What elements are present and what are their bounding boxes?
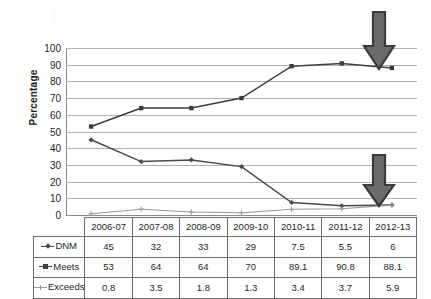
series-name: DNM xyxy=(55,237,77,255)
table-cell: 64 xyxy=(180,257,227,278)
cropped-title-band xyxy=(52,7,296,25)
series-marker-exceeds xyxy=(339,206,344,211)
legend-marker-cross-icon xyxy=(34,283,47,292)
table-cell: 70 xyxy=(227,257,274,278)
series-marker-meets xyxy=(289,64,293,68)
table-row: Meets 53 64 64 70 89.1 90.8 88.1 xyxy=(34,257,417,278)
column-header: 2012-13 xyxy=(369,218,416,237)
table-cell: 6 xyxy=(369,237,416,258)
table-cell: 53 xyxy=(85,257,132,278)
y-axis-tick-label: 30 xyxy=(50,159,61,170)
series-marker-dnm xyxy=(88,137,93,142)
arrow-meets-2012-13 xyxy=(362,10,396,72)
y-axis-tick-label: 100 xyxy=(44,43,61,54)
series-marker-meets xyxy=(239,96,243,100)
legend-marker-square-icon xyxy=(39,262,52,271)
table-cell: 1.8 xyxy=(180,278,227,299)
series-marker-exceeds xyxy=(189,209,194,214)
y-axis-tick-label: 90 xyxy=(50,59,61,70)
y-axis-tick-label: 10 xyxy=(50,193,61,204)
y-axis-tick-label: 80 xyxy=(50,76,61,87)
table-cell: 3.7 xyxy=(322,278,369,299)
legend-item-dnm: DNM xyxy=(34,237,85,258)
column-header: 2009-10 xyxy=(227,218,274,237)
table-cell: 90.8 xyxy=(322,257,369,278)
y-axis-tick-label: 40 xyxy=(50,143,61,154)
legend-marker-diamond-icon xyxy=(41,242,54,251)
table-cell: 89.1 xyxy=(274,257,321,278)
series-marker-meets xyxy=(189,106,193,110)
arrow-exceeds-2012-13 xyxy=(362,153,396,209)
series-line-meets xyxy=(91,63,392,126)
table-cell: 64 xyxy=(132,257,179,278)
table-row: Exceeds 0.8 3.5 1.8 1.3 3.4 3.7 5.9 xyxy=(34,278,417,299)
table-cell: 3.5 xyxy=(132,278,179,299)
column-header: 2007-08 xyxy=(132,218,179,237)
column-header: 2006-07 xyxy=(85,218,132,237)
column-header: 2010-11 xyxy=(274,218,321,237)
table-cell: 88.1 xyxy=(369,257,416,278)
table-cell: 5.9 xyxy=(369,278,416,299)
legend-item-exceeds: Exceeds xyxy=(34,278,85,299)
table-cell: 1.3 xyxy=(227,278,274,299)
data-table: 2006-07 2007-08 2008-09 2009-10 2010-11 … xyxy=(33,217,417,299)
table-row: DNM 45 32 33 29 7.5 5.5 6 xyxy=(34,237,417,258)
table-cell: 3.4 xyxy=(274,278,321,299)
column-header: 2008-09 xyxy=(180,218,227,237)
table-cell: 5.5 xyxy=(322,237,369,258)
y-axis-tick-label: 50 xyxy=(50,126,61,137)
series-line-dnm xyxy=(91,140,392,206)
table-cell: 33 xyxy=(180,237,227,258)
series-marker-exceeds xyxy=(88,211,93,216)
legend-item-meets: Meets xyxy=(34,257,85,278)
y-axis-tick-label: 60 xyxy=(50,109,61,120)
series-marker-exceeds xyxy=(289,207,294,212)
table-corner-cell xyxy=(34,218,85,237)
series-marker-meets xyxy=(139,106,143,110)
table-cell: 7.5 xyxy=(274,237,321,258)
table-header-row: 2006-07 2007-08 2008-09 2009-10 2010-11 … xyxy=(34,218,417,237)
series-name: Meets xyxy=(53,258,79,276)
table-cell: 32 xyxy=(132,237,179,258)
y-axis-title: Percentage xyxy=(28,43,39,153)
column-header: 2011-12 xyxy=(322,218,369,237)
series-marker-dnm xyxy=(189,157,194,162)
series-marker-meets xyxy=(340,61,344,65)
table-cell: 45 xyxy=(85,237,132,258)
series-marker-exceeds xyxy=(239,210,244,215)
y-axis-tick-label: 70 xyxy=(50,93,61,104)
series-marker-dnm xyxy=(139,159,144,164)
series-name: Exceeds xyxy=(48,278,84,296)
y-axis-tick-label: 20 xyxy=(50,176,61,187)
series-marker-meets xyxy=(89,124,93,128)
table-cell: 0.8 xyxy=(85,278,132,299)
table-cell: 29 xyxy=(227,237,274,258)
series-marker-exceeds xyxy=(139,207,144,212)
